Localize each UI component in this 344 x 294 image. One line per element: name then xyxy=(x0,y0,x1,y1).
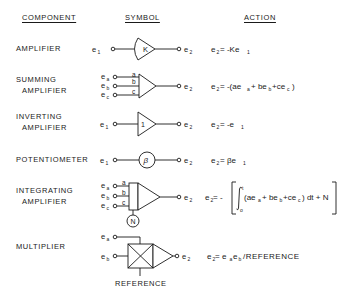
output-terminal-icon xyxy=(177,47,181,51)
input-e1-label: e xyxy=(100,120,104,129)
svg-text:b: b xyxy=(107,85,110,91)
svg-text:e: e xyxy=(211,82,216,91)
action-amplifier: e 2 = -Ke 1 xyxy=(211,45,250,55)
inverting-amplifier-symbol xyxy=(113,112,181,136)
input-e1-label: e xyxy=(92,45,96,54)
symbols-diagram: K a b c 1 β a b c N e 1 e 2 e a e b e c … xyxy=(0,0,344,294)
int-gain-a-label: a xyxy=(122,179,126,186)
svg-text:/REFERENCE: /REFERENCE xyxy=(243,252,300,261)
svg-text:a: a xyxy=(258,197,261,203)
gain-b-label: b xyxy=(132,78,136,85)
svg-text:c: c xyxy=(107,205,110,211)
svg-text:= -e: = -e xyxy=(220,120,235,129)
input-terminal-icon xyxy=(111,47,115,51)
action-integrating-amplifier: e 2 = - t o (ae a + be b +ce c ) dt + N xyxy=(205,182,336,214)
svg-text:e: e xyxy=(211,156,216,165)
svg-text:e: e xyxy=(207,252,212,261)
output-e2-label: e xyxy=(184,156,188,165)
svg-text:b: b xyxy=(239,256,242,262)
multiplier-symbol xyxy=(113,235,179,276)
svg-text:2: 2 xyxy=(190,160,193,166)
integrator-box-icon xyxy=(129,183,138,210)
action-multiplier: e 2 = e a e b /REFERENCE xyxy=(207,252,300,262)
svg-text:+ce: +ce xyxy=(283,193,297,202)
input-ea-label: e xyxy=(101,181,105,190)
action-inverting-amplifier: e 2 = -e 1 xyxy=(211,120,244,130)
svg-text:+ce: +ce xyxy=(272,82,286,91)
svg-text:o: o xyxy=(240,207,243,213)
svg-text:b: b xyxy=(107,195,110,201)
gain-k-label: K xyxy=(143,45,148,54)
svg-text:+ be: + be xyxy=(262,193,278,202)
svg-text:a: a xyxy=(107,236,110,242)
svg-text:(ae: (ae xyxy=(244,193,256,202)
svg-text:a: a xyxy=(247,86,250,92)
n-label: N xyxy=(131,218,136,225)
input-ec-label: e xyxy=(101,201,105,210)
svg-text:e: e xyxy=(205,193,210,202)
svg-text:1: 1 xyxy=(243,160,246,166)
output-e2-label: e xyxy=(184,193,188,202)
action-potentiometer: e 2 = βe 1 xyxy=(211,156,246,166)
input-ec-label: e xyxy=(101,90,105,99)
svg-text:1: 1 xyxy=(241,124,244,130)
svg-text:2: 2 xyxy=(190,49,193,55)
svg-text:c: c xyxy=(107,94,110,100)
multiplier-triangle-icon xyxy=(153,244,173,268)
svg-text:a: a xyxy=(107,185,110,191)
svg-text:): ) xyxy=(292,82,295,91)
svg-text:1: 1 xyxy=(98,49,101,55)
int-gain-b-label: b xyxy=(122,189,126,196)
svg-text:= -: = - xyxy=(213,193,223,202)
action-summing-amplifier: e 2 = -(ae a + be b +ce c ) xyxy=(211,82,295,92)
svg-text:2: 2 xyxy=(190,86,193,92)
svg-text:2: 2 xyxy=(188,256,191,262)
input-eb-label: e xyxy=(101,252,105,261)
svg-text:+ be: + be xyxy=(251,82,267,91)
svg-text:= -(ae: = -(ae xyxy=(220,82,242,91)
input-eb-label: e xyxy=(101,81,105,90)
svg-text:c: c xyxy=(298,197,301,203)
svg-text:2: 2 xyxy=(190,124,193,130)
svg-text:b: b xyxy=(107,256,110,262)
gain-c-label: c xyxy=(132,88,136,95)
reference-label: REFERENCE xyxy=(115,279,167,288)
svg-text:e: e xyxy=(233,252,238,261)
int-gain-c-label: c xyxy=(122,199,126,206)
right-bracket-icon xyxy=(332,182,336,214)
svg-text:1: 1 xyxy=(106,160,109,166)
svg-text:= -Ke: = -Ke xyxy=(220,45,240,54)
svg-text:e: e xyxy=(211,45,216,54)
svg-text:t: t xyxy=(242,185,244,191)
svg-text:c: c xyxy=(287,86,290,92)
input-e1-label: e xyxy=(100,156,104,165)
svg-text:) dt + N: ) dt + N xyxy=(302,193,329,202)
input-ea-label: e xyxy=(101,232,105,241)
svg-text:e: e xyxy=(211,120,216,129)
summing-triangle-icon xyxy=(139,74,156,98)
svg-text:= e: = e xyxy=(215,252,227,261)
output-e2-label: e xyxy=(184,82,188,91)
output-e2-label: e xyxy=(184,120,188,129)
input-eb-label: e xyxy=(101,191,105,200)
output-e2-label: e xyxy=(184,45,188,54)
left-bracket-icon xyxy=(232,182,236,214)
svg-text:1: 1 xyxy=(106,124,109,130)
integrator-triangle-icon xyxy=(138,183,160,210)
svg-text:1: 1 xyxy=(247,49,250,55)
svg-text:2: 2 xyxy=(190,197,193,203)
output-e2-label: e xyxy=(182,252,186,261)
svg-text:= βe: = βe xyxy=(220,156,236,165)
gain-1-label: 1 xyxy=(141,121,145,128)
beta-label: β xyxy=(143,156,149,165)
input-ea-label: e xyxy=(101,72,105,81)
gain-a-label: a xyxy=(132,71,136,78)
summing-amplifier-symbol xyxy=(113,74,181,98)
svg-text:a: a xyxy=(107,76,110,82)
